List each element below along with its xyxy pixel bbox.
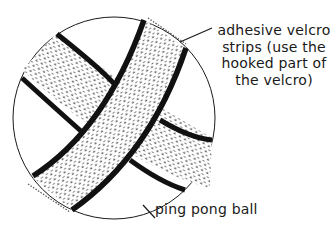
velcro-strips-label: adhesive velcro strips (use the hooked p…: [212, 22, 336, 88]
velcro-leader-line: [180, 28, 212, 42]
ping-pong-ball-label: ping pong ball: [155, 201, 258, 218]
